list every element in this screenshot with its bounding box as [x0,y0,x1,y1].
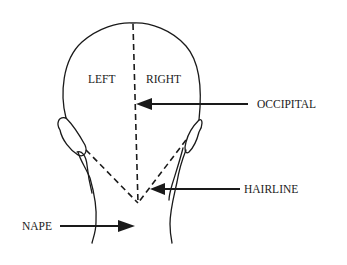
hairline-label: HAIRLINE [244,183,298,195]
nape-label: NAPE [22,220,52,232]
head-diagram: LEFT RIGHT OCCIPITAL HAIRLINE NAPE [0,0,347,265]
left-label: LEFT [88,73,115,85]
occipital-arrow-head [136,98,152,110]
nape-arrow-head [118,220,135,232]
center-part-line [133,24,138,203]
right-neck-inner [169,148,183,200]
left-neck-inner [77,152,92,193]
head-outline [63,23,200,120]
hairline-arrow-head [150,183,165,195]
left-ear [58,118,86,156]
right-ear [185,120,202,153]
right-label: RIGHT [146,73,181,85]
occipital-label: OCCIPITAL [257,98,316,110]
